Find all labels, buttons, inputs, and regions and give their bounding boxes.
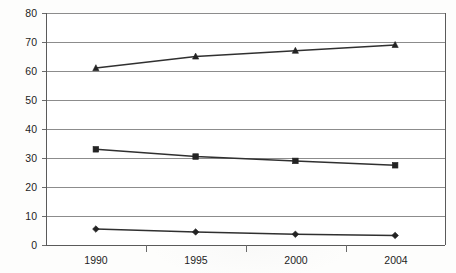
- y-tick-label: 30: [25, 152, 37, 164]
- x-tick-label-1990: 1990: [84, 254, 108, 266]
- y-axis-tickmarks: [42, 13, 46, 245]
- data-point-marker: [293, 158, 299, 164]
- y-tick-label: 20: [25, 181, 37, 193]
- data-point-marker: [193, 154, 199, 160]
- data-point-marker: [392, 162, 398, 168]
- y-tick-label: 10: [25, 210, 37, 222]
- x-tick-label-2000: 2000: [284, 254, 308, 266]
- y-tick-label: 70: [25, 36, 37, 48]
- x-axis-labels: 1990 1995 2000 2004: [84, 254, 408, 266]
- y-tick-label: 50: [25, 94, 37, 106]
- line-chart: 80 70 60 50 40 30 20 10 0 1990 1995 2000…: [0, 0, 456, 273]
- y-tick-label: 40: [25, 123, 37, 135]
- chart-screenshot: 80 70 60 50 40 30 20 10 0 1990 1995 2000…: [0, 0, 456, 273]
- y-tick-label: 0: [31, 239, 37, 251]
- x-tick-label-2004: 2004: [384, 254, 408, 266]
- x-tick-label-1995: 1995: [184, 254, 208, 266]
- y-axis-labels: 80 70 60 50 40 30 20 10 0: [25, 7, 37, 251]
- y-tick-label: 60: [25, 65, 37, 77]
- x-axis-tickmarks: [146, 245, 346, 252]
- y-tick-label: 80: [25, 7, 37, 19]
- data-point-marker: [93, 147, 99, 153]
